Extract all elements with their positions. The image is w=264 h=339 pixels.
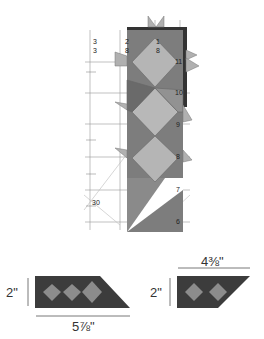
piece-left-width: 5⅞" [72, 319, 95, 334]
piece-right-width: 4⅜" [201, 254, 224, 269]
piece-left-height: 2" [6, 285, 18, 300]
piece-right-height: 2" [150, 285, 162, 300]
piece-right [170, 268, 250, 308]
cut-pieces [0, 0, 264, 339]
piece-left [28, 276, 130, 316]
